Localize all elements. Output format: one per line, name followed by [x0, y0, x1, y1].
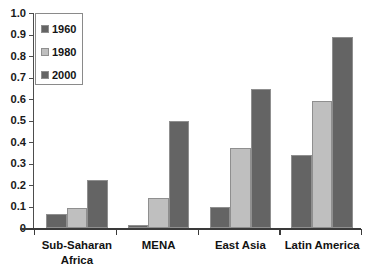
- x-tick-0: [34, 229, 35, 235]
- bar-2000-2: [251, 89, 272, 228]
- bar-group-3: [279, 13, 361, 228]
- legend-item-1980[interactable]: 1980: [41, 46, 76, 58]
- y-tick-label-10: 1.0: [0, 8, 26, 19]
- y-tick-label-3: 0.3: [0, 158, 26, 169]
- y-tick-label-6: 0.6: [0, 94, 26, 105]
- y-tick-label-5: 0.5: [0, 115, 26, 126]
- x-tick-2: [198, 229, 199, 235]
- legend-swatch-icon-1960: [41, 25, 49, 33]
- x-tick-3: [279, 229, 280, 235]
- legend-item-1960[interactable]: 1960: [41, 23, 76, 35]
- x-tick-1: [116, 229, 117, 235]
- y-tick-label-7: 0.7: [0, 72, 26, 83]
- bar-1960-0: [46, 214, 67, 228]
- legend-swatch-icon-2000: [41, 71, 49, 79]
- category-label-3: Latin America: [267, 238, 366, 253]
- y-tick-label-4: 0.4: [0, 137, 26, 148]
- bar-chart: 00.10.20.30.40.50.60.70.80.91.0 Sub-Saha…: [0, 0, 366, 272]
- legend-label-2000: 2000: [52, 70, 76, 81]
- bar-2000-0: [87, 180, 108, 228]
- y-tick-label-8: 0.8: [0, 51, 26, 62]
- bar-1980-3: [312, 101, 333, 228]
- bar-1980-0: [67, 208, 88, 228]
- bar-1980-1: [148, 198, 169, 228]
- bar-group-1: [116, 13, 198, 228]
- bar-2000-1: [169, 121, 190, 229]
- bar-group-2: [198, 13, 280, 228]
- bar-1960-3: [291, 155, 312, 228]
- legend-swatch-icon-1980: [41, 48, 49, 56]
- bar-1960-2: [210, 207, 231, 229]
- x-tick-4: [361, 229, 362, 235]
- bar-2000-3: [332, 37, 353, 228]
- y-tick-label-9: 0.9: [0, 29, 26, 40]
- legend-item-2000[interactable]: 2000: [41, 69, 76, 81]
- x-axis-line: [20, 228, 361, 230]
- legend-label-1980: 1980: [52, 47, 76, 58]
- plot-area: [34, 13, 361, 228]
- y-tick-label-1: 0.1: [0, 201, 26, 212]
- y-tick-label-2: 0.2: [0, 180, 26, 191]
- bar-1980-2: [230, 148, 251, 228]
- chart-legend: 196019802000: [35, 13, 83, 85]
- legend-label-1960: 1960: [52, 24, 76, 35]
